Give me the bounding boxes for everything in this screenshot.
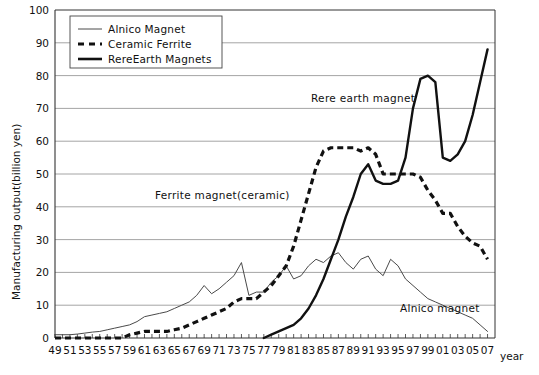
legend-label-1: Ceramic Ferrite	[108, 38, 192, 50]
x-tick-label: 73	[227, 344, 240, 356]
y-axis-title: Manufacturing output(billion yen)	[10, 124, 22, 300]
legend: Alnico MagnetCeramic FerriteRereEarth Ma…	[70, 16, 222, 68]
legend-label-2: RereEarth Magnets	[108, 53, 212, 65]
x-tick-label: 99	[421, 344, 434, 356]
y-tick-label: 80	[36, 70, 49, 82]
x-tick-label: 89	[347, 344, 360, 356]
x-tick-label: 93	[376, 344, 389, 356]
annotation-label: Alnico magnet	[400, 302, 480, 314]
y-tick-label: 40	[36, 201, 49, 213]
x-tick-label: 71	[212, 344, 225, 356]
x-tick-label: 07	[481, 344, 494, 356]
y-tick-label: 50	[36, 168, 49, 180]
x-tick-label: 01	[436, 344, 449, 356]
manufacturing-output-line-chart: 0102030405060708090100 49515355575961636…	[0, 0, 539, 375]
x-tick-label: 05	[466, 344, 479, 356]
x-tick-label: 75	[242, 344, 255, 356]
legend-label-0: Alnico Magnet	[108, 23, 185, 35]
x-tick-label: 97	[406, 344, 419, 356]
y-tick-label: 70	[36, 102, 49, 114]
chart-figure: 0102030405060708090100 49515355575961636…	[0, 0, 539, 375]
x-tick-label: 51	[63, 344, 76, 356]
x-tick-label: 69	[197, 344, 210, 356]
x-tick-label: 59	[123, 344, 136, 356]
x-tick-label: 57	[108, 344, 121, 356]
x-tick-label: 81	[287, 344, 300, 356]
annotation-label: Rere earth magnet	[311, 92, 415, 104]
x-axis-unit-label: year	[500, 350, 524, 362]
y-tick-label: 30	[36, 234, 49, 246]
y-tick-label: 90	[36, 37, 49, 49]
x-tick-label: 83	[302, 344, 315, 356]
y-tick-label: 10	[36, 299, 49, 311]
x-tick-label: 85	[317, 344, 330, 356]
x-tick-label: 55	[93, 344, 106, 356]
y-tick-label: 20	[36, 266, 49, 278]
x-tick-label: 87	[332, 344, 345, 356]
annotation-label: Ferrite magnet(ceramic)	[155, 189, 290, 201]
x-tick-label: 53	[78, 344, 91, 356]
x-tick-label: 03	[451, 344, 464, 356]
x-tick-label: 49	[48, 344, 61, 356]
x-tick-label: 67	[183, 344, 196, 356]
y-tick-label: 100	[29, 4, 49, 16]
x-tick-label: 79	[272, 344, 285, 356]
y-tick-label: 60	[36, 135, 49, 147]
y-tick-label: 0	[42, 332, 49, 344]
x-tick-label: 95	[391, 344, 404, 356]
x-tick-label: 77	[257, 344, 270, 356]
x-tick-label: 63	[153, 344, 166, 356]
x-axis-tick-labels: 4951535557596163656769717375777981838587…	[48, 344, 494, 356]
x-tick-label: 61	[138, 344, 151, 356]
x-tick-label: 65	[168, 344, 181, 356]
x-tick-label: 91	[362, 344, 375, 356]
